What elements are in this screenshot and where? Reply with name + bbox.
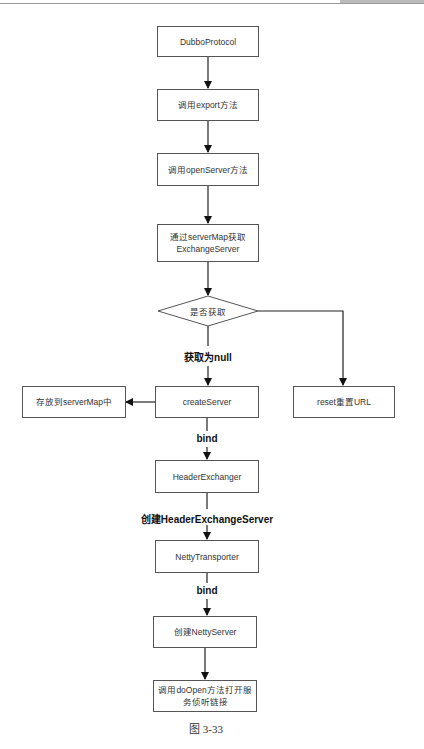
- node-label: 调用openServer方法: [168, 164, 248, 176]
- edge-label-null-result: 获取为null: [184, 349, 232, 364]
- node-label: 创建NettyServer: [174, 626, 237, 638]
- node-label-line2: 务侦听链接: [183, 696, 228, 708]
- node-call-open-server: 调用openServer方法: [157, 153, 259, 186]
- node-header-exchanger: HeaderExchanger: [155, 460, 259, 493]
- node-label-line1: 调用doOpen方法打开服: [158, 684, 251, 696]
- node-label: NettyTransporter: [175, 551, 238, 563]
- node-get-exchange-server: 通过serverMap获取 ExchangeServer: [157, 224, 259, 262]
- node-reset-url: reset重置URL: [293, 386, 395, 418]
- node-netty-transporter: NettyTransporter: [155, 540, 259, 573]
- node-create-netty-server: 创建NettyServer: [153, 616, 257, 648]
- node-label: reset重置URL: [317, 396, 371, 408]
- node-create-server: createServer: [155, 386, 259, 418]
- edge-label-bind-1: bind: [196, 433, 217, 444]
- node-label: createServer: [183, 396, 232, 408]
- node-store-server-map: 存放到serverMap中: [22, 386, 126, 418]
- node-call-export: 调用export方法: [157, 89, 259, 121]
- node-label: HeaderExchanger: [173, 471, 242, 483]
- edge-label-create-header-exchange-server: 创建HeaderExchangeServer: [141, 511, 273, 526]
- node-do-open: 调用doOpen方法打开服 务侦听链接: [153, 680, 257, 712]
- figure-caption: 图 3-33: [189, 720, 223, 736]
- edge-label-bind-2: bind: [196, 585, 217, 596]
- node-label-line1: 通过serverMap获取: [170, 231, 246, 243]
- node-label: DubboProtocol: [180, 36, 236, 48]
- node-dubbo-protocol: DubboProtocol: [157, 26, 259, 57]
- node-label-line2: ExchangeServer: [177, 243, 240, 255]
- node-label: 调用export方法: [178, 99, 238, 111]
- decision-label: 是否获取: [190, 305, 226, 317]
- node-label: 存放到serverMap中: [36, 396, 112, 408]
